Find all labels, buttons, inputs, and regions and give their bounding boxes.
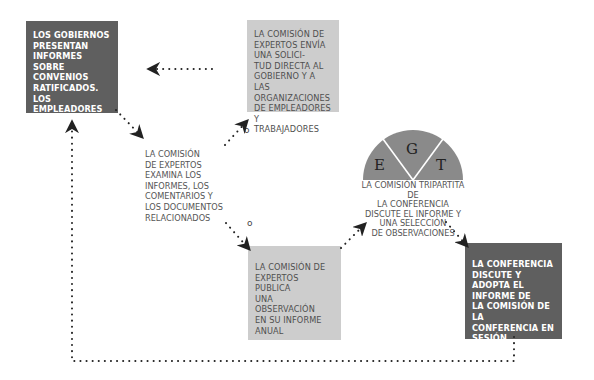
arrow-examina-to-solicitud [225,121,247,145]
arrow-observacion-to-tripartita [341,224,365,248]
arrow-gobiernos-to-examina [116,110,142,137]
connectors [0,0,594,380]
arrow-examina-to-observacion [226,223,249,249]
arrow-tripartita-to-plenaria [446,222,467,246]
arrow-plenaria-to-gobiernos [72,122,514,361]
